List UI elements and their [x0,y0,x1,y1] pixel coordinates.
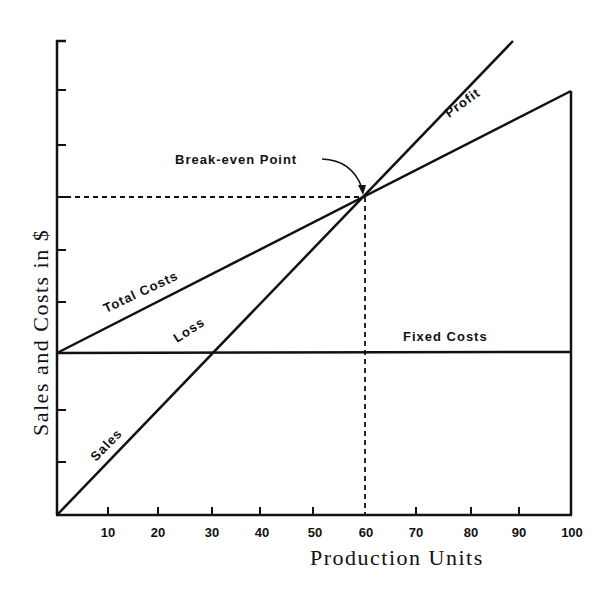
axes [56,40,572,515]
sales-label: Sales [87,426,125,464]
profit-label: Profit [442,85,483,121]
x-tick-label: 60 [359,525,373,540]
break-even-label: Break-even Point [175,152,297,167]
x-tick-label: 80 [464,525,478,540]
x-tick-label: 100 [561,525,583,540]
y-ticks [57,90,66,462]
series-lines [57,41,571,515]
fixed-costs-line [57,352,571,353]
fixed-costs-label: Fixed Costs [403,329,488,344]
break-even-chart: 10 20 30 40 50 60 70 80 90 100 Productio… [0,0,610,590]
break-even-arrow [322,159,366,195]
x-tick-labels: 10 20 30 40 50 60 70 80 90 100 [101,525,583,540]
x-tick-label: 90 [512,525,526,540]
x-tick-label: 10 [101,525,115,540]
y-axis-title: Sales and Costs in $ [28,229,53,436]
x-tick-label: 50 [308,525,322,540]
x-tick-label: 20 [151,525,165,540]
x-tick-label: 70 [409,525,423,540]
total-costs-line [57,91,571,353]
x-tick-label: 30 [205,525,219,540]
total-costs-label: Total Costs [101,268,181,316]
x-tick-label: 40 [255,525,269,540]
loss-label: Loss [170,314,207,345]
x-axis-title: Production Units [310,545,484,570]
